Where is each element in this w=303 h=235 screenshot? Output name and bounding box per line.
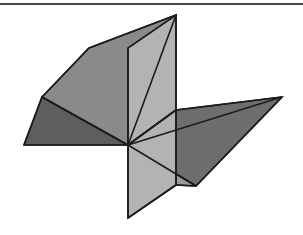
- figure-page: [0, 0, 303, 235]
- edge-right-bottom: [176, 185, 196, 186]
- three-planes-diagram: [0, 0, 303, 235]
